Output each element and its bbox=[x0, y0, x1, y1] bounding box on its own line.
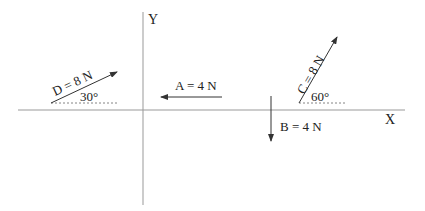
y-axis-label: Y bbox=[148, 12, 158, 27]
vector-a-label: A = 4 N bbox=[175, 78, 217, 93]
vector-d-angle-label: 30° bbox=[80, 89, 98, 104]
vector-c-angle-label: 60° bbox=[311, 89, 329, 104]
vector-d: D = 8 N 30° bbox=[50, 67, 117, 104]
x-axis-label: X bbox=[385, 112, 395, 127]
vector-b-label: B = 4 N bbox=[280, 119, 322, 134]
vector-c: C = 8 N 60° bbox=[294, 37, 345, 104]
vector-a: A = 4 N bbox=[161, 78, 222, 97]
force-diagram: X Y D = 8 N 30° A = 4 N C = 8 N 60° B = … bbox=[0, 0, 425, 211]
